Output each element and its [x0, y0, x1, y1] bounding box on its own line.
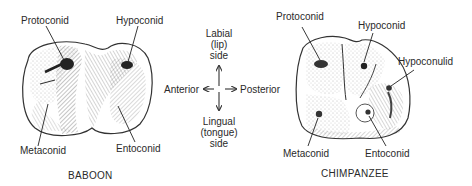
compass-lingual-label: Lingual (tongue) side	[195, 116, 243, 149]
compass-lingual-line3: side	[195, 138, 243, 149]
tooth-comparison-diagram: Protoconid Hypoconid Metaconid Entoconid…	[0, 0, 472, 186]
baboon-protoconid-label: Protoconid	[21, 15, 69, 26]
baboon-entoconid-label: Entoconid	[116, 143, 160, 154]
chimpanzee-caption: CHIMPANZEE	[321, 168, 389, 179]
baboon-caption: BABOON	[68, 170, 113, 181]
baboon-tooth-drawing	[23, 26, 152, 146]
chimpanzee-tooth-drawing	[296, 27, 414, 146]
chimpanzee-hypoconulid-label: Hypoconulid	[398, 56, 453, 67]
compass-labial-line2: (lip)	[199, 39, 239, 50]
chimpanzee-protoconid-label: Protoconid	[276, 11, 324, 22]
compass-labial-label: Labial (lip) side	[199, 28, 239, 61]
compass-lingual-line2: (tongue)	[195, 127, 243, 138]
orientation-compass-arrows	[204, 66, 236, 110]
chimpanzee-hypoconid-label: Hypoconid	[358, 20, 405, 31]
compass-labial-line3: side	[199, 50, 239, 61]
compass-posterior-label: Posterior	[240, 84, 280, 95]
baboon-hypoconid-label: Hypoconid	[116, 15, 163, 26]
compass-lingual-line1: Lingual	[195, 116, 243, 127]
chimpanzee-entoconid-label: Entoconid	[365, 148, 409, 159]
chimpanzee-metaconid-label: Metaconid	[283, 148, 329, 159]
compass-labial-line1: Labial	[199, 28, 239, 39]
baboon-metaconid-label: Metaconid	[20, 145, 66, 156]
compass-anterior-label: Anterior	[164, 84, 199, 95]
